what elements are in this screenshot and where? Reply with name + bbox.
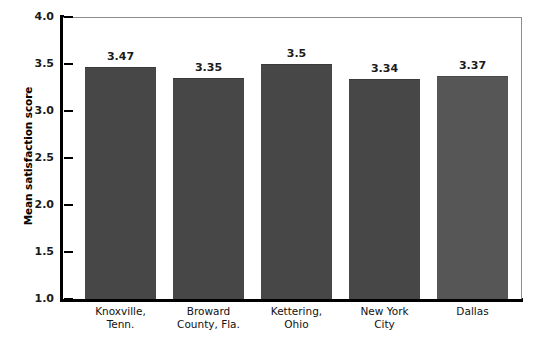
category-label-line: New York: [360, 305, 408, 317]
y-tick-label-text: 3.5: [22, 57, 54, 70]
x-axis-category-label: BrowardCounty, Fla.: [159, 305, 258, 331]
y-tick-mark: [64, 63, 73, 65]
bar-chart: Mean satisfaction score 4.03.53.02.52.01…: [0, 0, 533, 341]
y-tick-mark: [64, 251, 73, 253]
bar: [85, 67, 156, 299]
bar-value-label: 3.37: [437, 59, 508, 72]
bar: [261, 64, 332, 299]
category-label-line: Kettering,: [271, 305, 322, 317]
bar-value-label: 3.5: [261, 47, 332, 60]
category-label-line: County, Fla.: [159, 318, 258, 331]
y-tick-label-text: 2.0: [22, 198, 54, 211]
bar-value-label: 3.35: [173, 61, 244, 74]
bar-value-label: 3.34: [349, 62, 420, 75]
x-axis-category-label: New YorkCity: [335, 305, 434, 331]
bar-value-label: 3.47: [85, 50, 156, 63]
y-tick-label-text: 1.5: [22, 245, 54, 258]
bar: [349, 79, 420, 299]
category-label-line: Broward: [187, 305, 231, 317]
x-axis-category-label: Kettering,Ohio: [247, 305, 346, 331]
x-axis-category-label: Dallas: [423, 305, 522, 318]
y-tick-label-text: 2.5: [22, 151, 54, 164]
category-label-line: Knoxville,: [95, 305, 146, 317]
y-tick-mark: [64, 110, 73, 112]
category-label-line: Dallas: [456, 305, 488, 317]
x-axis-category-label: Knoxville,Tenn.: [71, 305, 170, 331]
y-tick-mark: [64, 16, 73, 18]
y-tick-mark: [64, 298, 73, 300]
y-tick-label-text: 3.0: [22, 104, 54, 117]
y-tick-label-text: 4.0: [22, 10, 54, 23]
y-tick-mark: [64, 157, 73, 159]
category-label-line: Ohio: [247, 318, 346, 331]
category-label-line: Tenn.: [71, 318, 170, 331]
y-tick-mark: [64, 204, 73, 206]
bar: [173, 78, 244, 299]
bar: [437, 76, 508, 299]
y-tick-label-text: 1.0: [22, 292, 54, 305]
category-label-line: City: [335, 318, 434, 331]
